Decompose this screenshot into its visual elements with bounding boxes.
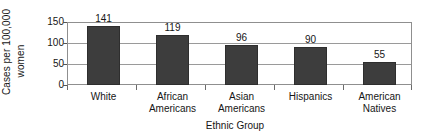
y-axis-title-line-1: Cases per 100,000 [2, 9, 12, 95]
x-label-american-natives: American Natives [358, 91, 400, 115]
bar-american-natives [363, 62, 396, 85]
bar-series: 141 119 96 90 55 [67, 0, 412, 86]
x-label-hispanics-line-1: Hispanics [289, 91, 332, 103]
y-tick-label-150: 150 [40, 17, 64, 27]
bar-hispanics [294, 47, 327, 85]
x-label-asian-americans-line-1: Asian [218, 91, 265, 103]
x-tick-mark-5 [411, 85, 412, 90]
y-tick-label-100: 100 [40, 38, 64, 48]
y-tick-label-50: 50 [40, 59, 64, 69]
bar-value-hispanics: 90 [305, 35, 316, 45]
bar-value-white: 141 [95, 14, 112, 24]
bar-white [87, 26, 120, 85]
x-tick-mark-3 [274, 85, 275, 90]
x-label-american-natives-line-2: Natives [358, 103, 400, 115]
x-axis-category-labels: White African Americans Asian Americans … [67, 91, 412, 117]
y-axis-tick-labels: 150 100 50 0 [38, 0, 64, 139]
y-tick-label-0: 0 [40, 80, 64, 90]
x-label-african-americans-line-1: African [149, 91, 196, 103]
x-tick-mark-2 [205, 85, 206, 90]
x-label-african-americans: African Americans [149, 91, 196, 115]
x-label-white-line-1: White [91, 91, 117, 103]
x-axis-title: Ethnic Group [0, 120, 424, 131]
bar-african-americans [156, 35, 189, 85]
y-axis-title-line-2: women [16, 45, 26, 78]
y-axis-title: Cases per 100,000 women [0, 0, 40, 104]
x-label-hispanics: Hispanics [289, 91, 332, 103]
x-label-white: White [91, 91, 117, 103]
bar-value-african-americans: 119 [165, 23, 181, 33]
x-label-asian-americans-line-2: Americans [218, 103, 265, 115]
x-tick-mark-1 [136, 85, 137, 90]
bar-value-asian-americans: 96 [236, 33, 247, 43]
bar-chart: Cases per 100,000 women 150 100 50 0 141… [0, 0, 424, 139]
x-label-american-natives-line-1: American [358, 91, 400, 103]
x-label-asian-americans: Asian Americans [218, 91, 265, 115]
bar-value-american-natives: 55 [374, 50, 385, 60]
x-tick-mark-4 [343, 85, 344, 90]
x-label-african-americans-line-2: Americans [149, 103, 196, 115]
x-tick-mark-0 [67, 85, 68, 90]
bar-asian-americans [225, 45, 258, 85]
